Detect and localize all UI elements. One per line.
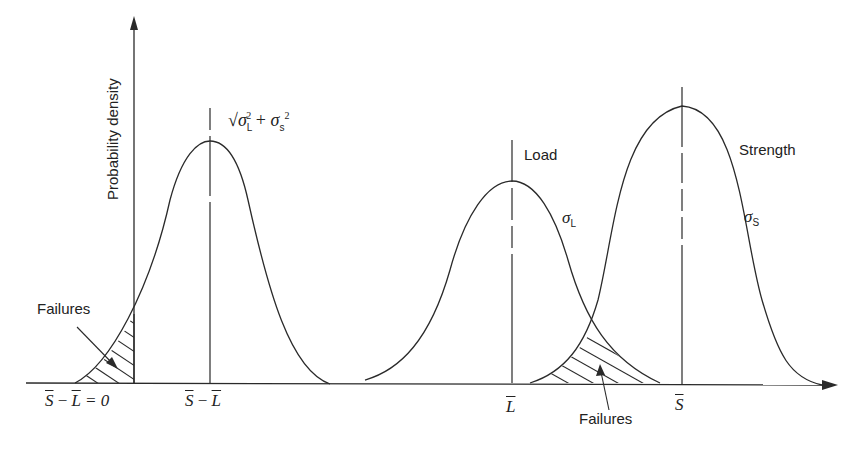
x-tick-strength-mean: S: [675, 395, 684, 415]
failures-left-label: Failures: [37, 300, 90, 317]
l-bar: L: [212, 391, 221, 410]
s-bar: S: [45, 391, 54, 410]
subscript-S: S: [752, 217, 759, 228]
s-bar: S: [185, 391, 194, 410]
y-axis-label: Probability density: [104, 78, 121, 200]
y-axis-arrow-icon: [130, 16, 138, 30]
x-axis-arrow-icon: [822, 380, 838, 390]
l-bar: L: [72, 391, 81, 410]
x-tick-load-mean: L: [506, 397, 515, 417]
minus-sign: −: [54, 391, 72, 410]
sigma-s-label: σS: [744, 207, 759, 228]
x-tick-zero-margin: S − L = 0: [45, 391, 109, 411]
superscript-2: 2: [284, 110, 289, 121]
x-tick-margin: S − L: [185, 391, 221, 411]
x-axis: [26, 380, 838, 390]
subscript-L: L: [570, 218, 576, 229]
load-strength-interference-diagram: [0, 0, 861, 450]
load-curve: [365, 140, 660, 383]
equals-zero: = 0: [81, 391, 109, 410]
radical-sign: √: [228, 110, 238, 130]
combined-sigma-label: √σL2 + σs2: [228, 110, 289, 133]
strength-curve: [530, 87, 822, 385]
right-failure-arrow-icon: [596, 364, 605, 376]
strength-label: Strength: [739, 141, 796, 158]
subscript-s: s: [279, 122, 284, 133]
load-label: Load: [524, 146, 557, 163]
failures-right-label: Failures: [579, 410, 632, 427]
left-failure-pointer: [77, 327, 113, 364]
sigma-l-label: σL: [562, 208, 576, 229]
plus-sign: +: [251, 110, 270, 130]
minus-sign: −: [194, 391, 212, 410]
